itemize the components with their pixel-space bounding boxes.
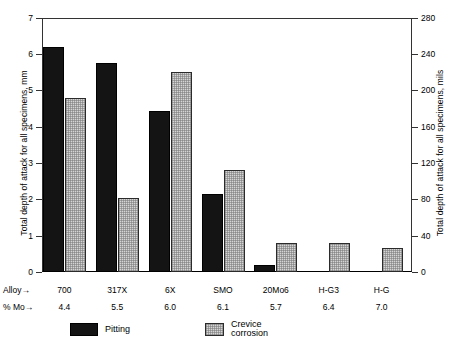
legend-swatch-pitting-icon xyxy=(70,323,98,336)
y-ticklabel-left: 4 xyxy=(5,123,33,132)
mo-label-700: 4.4 xyxy=(34,302,94,312)
mo-label-317X: 5.5 xyxy=(87,302,147,312)
y-ticklabel-left: 6 xyxy=(5,50,33,59)
alloy-label-SMO: SMO xyxy=(193,285,253,295)
bar-pitting-SMO xyxy=(202,194,223,272)
alloy-label-20Mo6: 20Mo6 xyxy=(246,285,306,295)
y-ticklabel-left: 0 xyxy=(5,268,33,277)
bar-crevice-20Mo6 xyxy=(276,243,297,272)
y-tick-right xyxy=(412,272,418,273)
y-tick-right xyxy=(412,199,418,200)
bar-pitting-20Mo6 xyxy=(254,265,275,272)
legend-item-crevice: Crevice corrosion xyxy=(205,322,277,336)
y-ticklabel-left: 5 xyxy=(5,86,33,95)
bar-crevice-H-G3 xyxy=(329,243,350,272)
alloy-label-6X: 6X xyxy=(140,285,200,295)
y-ticklabel-right: 40 xyxy=(421,232,451,241)
alloy-label-H-G: H-G xyxy=(352,285,412,295)
alloy-row-text: Alloy xyxy=(3,285,21,295)
y-tick-right xyxy=(412,90,418,91)
y-ticklabel-right: 240 xyxy=(421,50,451,59)
legend-label-pitting: Pitting xyxy=(105,325,130,334)
alloy-label-700: 700 xyxy=(34,285,94,295)
y-tick-right xyxy=(412,163,418,164)
y-ticklabel-left: 1 xyxy=(5,232,33,241)
mo-label-SMO: 6.1 xyxy=(193,302,253,312)
y-ticklabel-left: 3 xyxy=(5,159,33,168)
bar-pitting-700 xyxy=(43,47,64,272)
chart-root: Total depth of attack for all specimens,… xyxy=(0,0,453,344)
mo-label-20Mo6: 5.7 xyxy=(246,302,306,312)
y-ticklabel-left: 2 xyxy=(5,195,33,204)
bar-crevice-700 xyxy=(65,98,86,272)
y-axis-title-left: Total depth of attack for all specimens,… xyxy=(19,43,29,263)
legend-label-crevice: Crevice corrosion xyxy=(231,320,277,338)
bars-layer xyxy=(42,18,412,272)
bar-pitting-317X xyxy=(96,63,117,272)
alloy-label-317X: 317X xyxy=(87,285,147,295)
bar-crevice-6X xyxy=(171,72,192,272)
bar-pitting-6X xyxy=(149,111,170,272)
bar-crevice-317X xyxy=(118,198,139,272)
bar-crevice-H-G xyxy=(382,248,403,272)
bar-crevice-SMO xyxy=(224,170,245,272)
mo-row-label: % Mo→ xyxy=(3,302,33,312)
y-ticklabel-right: 0 xyxy=(421,268,451,277)
legend-swatch-crevice-icon xyxy=(205,323,224,336)
y-tick-right xyxy=(412,54,418,55)
y-tick-right xyxy=(412,18,418,19)
y-ticklabel-left: 7 xyxy=(5,14,33,23)
arrow-icon: → xyxy=(25,302,34,312)
y-axis-title-right: Total depth of attack for all specimens,… xyxy=(435,43,445,263)
y-ticklabel-right: 80 xyxy=(421,195,451,204)
y-ticklabel-right: 160 xyxy=(421,123,451,132)
y-ticklabel-right: 280 xyxy=(421,14,451,23)
mo-label-6X: 6.0 xyxy=(140,302,200,312)
y-tick-right xyxy=(412,236,418,237)
y-tick-right xyxy=(412,127,418,128)
alloy-row-label: Alloy→ xyxy=(3,285,30,295)
alloy-label-H-G3: H-G3 xyxy=(299,285,359,295)
y-tick-left xyxy=(36,272,42,273)
mo-label-H-G: 7.0 xyxy=(352,302,412,312)
y-ticklabel-right: 200 xyxy=(421,86,451,95)
arrow-icon: → xyxy=(21,285,30,295)
y-ticklabel-right: 120 xyxy=(421,159,451,168)
legend-item-pitting: Pitting xyxy=(70,322,130,336)
mo-label-H-G3: 6.4 xyxy=(299,302,359,312)
mo-row-text: % Mo xyxy=(3,302,25,312)
